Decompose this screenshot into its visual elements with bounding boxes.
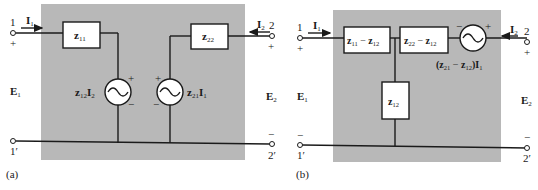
minus-b-port2: − [524, 131, 530, 143]
minus-b-src: − [456, 20, 462, 32]
voltage-a-E1: E1 [10, 85, 21, 99]
terminal-label-a-1: 1 [10, 16, 16, 28]
terminal-label-a-1p: 1′ [10, 145, 18, 157]
terminal-a-1 [11, 31, 16, 36]
terminal-a-2 [270, 34, 275, 39]
terminal-b-2p [525, 146, 530, 151]
terminal-a-1p [11, 139, 16, 144]
current-a-I2: I2 [257, 18, 265, 32]
two-port-diagrams: z11 z22 + − z12I2 + − z21I1 1 + E1 1′ (a… [0, 0, 538, 190]
voltage-a-E2: E2 [266, 90, 277, 104]
circuit-a: z11 z22 + − z12I2 + − z21I1 1 + E1 1′ (a… [6, 4, 270, 181]
current-a-I1: I1 [26, 14, 34, 28]
terminal-b-1p [298, 143, 303, 148]
label-b-src: (z21 − z12)I1 [436, 59, 482, 71]
plus-a-src2: + [155, 72, 161, 84]
minus-b-port1: − [297, 129, 303, 141]
terminal-label-a-2p: 2′ [268, 149, 276, 161]
plus-a-port1: + [10, 37, 16, 49]
terminal-b-2 [525, 40, 530, 45]
current-b-I1: I1 [313, 19, 321, 33]
voltage-b-E1: E1 [297, 90, 308, 104]
plus-b-src: + [485, 20, 491, 32]
terminal-a-2p [270, 142, 275, 147]
circuit-b: z11 − z12 z22 − z12 z12 − + (z21 − z12)I… [296, 10, 532, 181]
minus-a-src2: − [153, 98, 159, 110]
terminal-label-b-1p: 1′ [297, 149, 305, 161]
minus-a-port2: − [268, 128, 274, 140]
terminal-label-b-1: 1 [297, 21, 303, 33]
plus-a-src1: + [128, 72, 134, 84]
minus-a-src1: − [128, 98, 134, 110]
port2-a: I2 2 + E2 − 2′ [250, 18, 277, 161]
voltage-b-E2: E2 [521, 94, 532, 108]
terminal-b-1 [298, 36, 303, 41]
terminal-label-b-2p: 2′ [523, 152, 531, 164]
current-b-I2: I2 [510, 23, 518, 37]
terminal-label-b-2: 2 [524, 25, 530, 37]
caption-a: (a) [6, 168, 19, 181]
caption-b: (b) [296, 168, 309, 181]
plus-b-port2: + [524, 46, 530, 58]
plus-b-port1: + [297, 42, 303, 54]
terminal-label-a-2: 2 [269, 19, 275, 31]
plus-a-port2: + [268, 40, 274, 52]
